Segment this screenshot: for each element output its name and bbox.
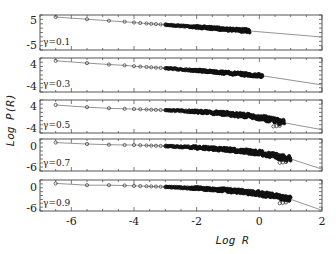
y-tick-label: 4 <box>30 58 37 71</box>
fit-line <box>56 61 322 85</box>
y-tick-label: 0 <box>30 140 37 153</box>
x-tick-label: -4 <box>129 215 140 228</box>
x-tick-label: -6 <box>66 215 77 228</box>
y-tick-label: -5 <box>26 39 37 52</box>
figure: 5-5γ=0.14-4γ=0.34-4γ=0.50-6γ=0.70-6γ=0.9… <box>0 0 336 254</box>
data-markers <box>54 59 264 78</box>
y-tick-label: -4 <box>26 122 37 135</box>
y-tick-label: 5 <box>30 14 37 27</box>
gamma-label: γ=0.9 <box>43 198 71 208</box>
y-tick-label: -4 <box>26 80 37 93</box>
panels: 5-5γ=0.14-4γ=0.34-4γ=0.50-6γ=0.70-6γ=0.9 <box>26 14 322 215</box>
y-tick-label: 4 <box>30 100 37 113</box>
x-tick-label: 2 <box>319 215 326 228</box>
gamma-label: γ=0.1 <box>43 37 70 47</box>
x-tick-label: 0 <box>256 215 263 228</box>
gamma-label: γ=0.5 <box>43 120 71 130</box>
panel-4: 0-6γ=0.7 <box>26 139 322 174</box>
panel-1: 5-5γ=0.1 <box>26 14 322 52</box>
y-tick-label: -6 <box>26 161 37 174</box>
panel-2: 4-4γ=0.3 <box>26 58 322 94</box>
x-axis: -6-4-202 <box>66 215 326 228</box>
panel-3: 4-4γ=0.5 <box>26 100 322 135</box>
gamma-label: γ=0.3 <box>43 79 71 89</box>
y-tick-label: -6 <box>26 202 37 215</box>
gamma-label: γ=0.7 <box>43 158 71 168</box>
data-markers <box>54 103 286 128</box>
y-axis-label: Log P(R) <box>4 94 17 147</box>
data-markers <box>54 15 251 34</box>
y-tick-label: 0 <box>30 181 37 194</box>
x-tick-label: -2 <box>191 215 202 228</box>
x-axis-label: Log R <box>215 234 248 247</box>
panel-5: 0-6γ=0.9 <box>26 180 322 215</box>
